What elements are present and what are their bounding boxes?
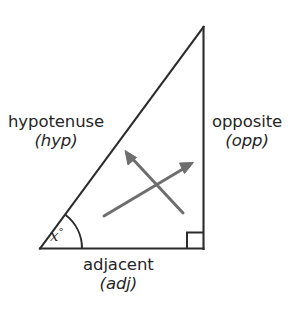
opposite-label: opposite (opp) [212,112,282,151]
hypotenuse-label-abbr: (hyp) [8,131,104,151]
angle-arc [66,215,82,249]
degree-symbol: ° [58,226,63,237]
opposite-label-abbr: (opp) [212,131,282,151]
adjacent-label-abbr: (adj) [83,274,154,294]
opposite-label-word: opposite [212,112,282,131]
adjacent-label-word: adjacent [83,255,154,274]
adjacent-label: adjacent (adj) [83,255,154,294]
trig-triangle-figure: hypotenuse (hyp) opposite (opp) adjacent… [0,0,299,314]
right-angle-marker [187,233,203,249]
angle-label: x° [50,226,63,245]
arrow-to-hypotenuse [125,151,183,214]
hypotenuse-label-word: hypotenuse [8,112,104,131]
hypotenuse-label: hypotenuse (hyp) [8,112,104,151]
